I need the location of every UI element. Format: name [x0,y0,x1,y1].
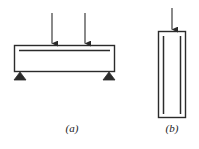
support-triangle-right [103,72,115,80]
column-member [159,32,186,118]
figure-container: (a) (b) [0,0,199,149]
panel-a-group [14,13,115,80]
panel-b-group [159,8,186,118]
panel-b-caption: (b) [152,123,192,134]
panel-a-caption: (a) [52,123,92,134]
beam-member [15,46,115,72]
support-triangle-left [14,72,26,80]
